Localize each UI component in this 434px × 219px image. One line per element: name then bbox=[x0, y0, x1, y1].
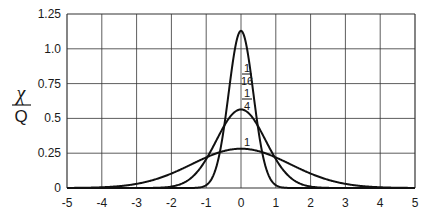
x-tick-label: -1 bbox=[201, 196, 212, 210]
label-1-16: 116 bbox=[241, 62, 253, 87]
curve-labels: 116141 bbox=[241, 62, 253, 148]
x-tick-label: -3 bbox=[131, 196, 142, 210]
chart: -5-4-3-2-1012345 00.250.50.751.01.25 χ Q… bbox=[0, 0, 434, 219]
y-axis-label: χ Q bbox=[12, 82, 31, 126]
x-tick-label: 0 bbox=[238, 196, 245, 210]
x-tick-label: 5 bbox=[412, 196, 419, 210]
svg-text:1: 1 bbox=[244, 62, 250, 74]
x-tick-label: -2 bbox=[166, 196, 177, 210]
y-tick-label: 0.75 bbox=[38, 77, 62, 91]
x-tick-label: 2 bbox=[307, 196, 314, 210]
x-axis-ticks: -5-4-3-2-1012345 bbox=[62, 196, 419, 210]
label-1: 1 bbox=[244, 136, 250, 148]
svg-text:16: 16 bbox=[241, 75, 253, 87]
y-label-denominator: Q bbox=[14, 107, 27, 126]
y-tick-label: 1.0 bbox=[44, 42, 61, 56]
label-1-4: 14 bbox=[242, 87, 252, 112]
y-tick-label: 0 bbox=[54, 181, 61, 195]
grid bbox=[67, 14, 415, 188]
x-tick-label: 4 bbox=[377, 196, 384, 210]
svg-text:1: 1 bbox=[244, 136, 250, 148]
y-tick-label: 0.25 bbox=[38, 146, 62, 160]
y-axis-ticks: 00.250.50.751.01.25 bbox=[38, 7, 62, 195]
x-tick-label: -5 bbox=[62, 196, 73, 210]
y-tick-label: 0.5 bbox=[44, 111, 61, 125]
svg-text:1: 1 bbox=[244, 87, 250, 99]
y-tick-label: 1.25 bbox=[38, 7, 62, 21]
x-tick-label: 1 bbox=[272, 196, 279, 210]
x-tick-label: -4 bbox=[96, 196, 107, 210]
svg-text:4: 4 bbox=[244, 100, 250, 112]
y-label-numerator: χ bbox=[15, 82, 27, 105]
x-tick-label: 3 bbox=[342, 196, 349, 210]
